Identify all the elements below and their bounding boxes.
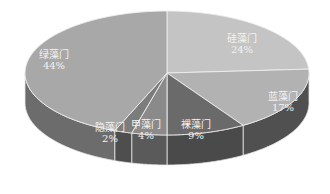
label-jiazao-pct: 4% xyxy=(138,130,154,141)
label-yinzao-pct: 2% xyxy=(102,133,118,144)
label-lanzao-pct: 17% xyxy=(272,102,294,113)
label-guizao-name: 硅藻门 xyxy=(227,32,257,44)
label-guizao-pct: 24% xyxy=(231,44,253,55)
label-luozao-pct: 9% xyxy=(188,130,204,141)
label-yinzao-name: 隐藻门 xyxy=(95,121,125,133)
label-lanzao-name: 蓝藻门 xyxy=(268,90,298,102)
pie-chart: 硅藻门 24% 蓝藻门 17% 裸藻门 9% 甲藻门 4% 隐藻门 2% 绿藻门… xyxy=(0,0,330,194)
label-jiazao-name: 甲藻门 xyxy=(131,118,161,130)
label-lvzao-pct: 44% xyxy=(43,60,65,71)
label-lvzao-name: 绿藻门 xyxy=(39,48,69,60)
pie-top-slices xyxy=(25,11,309,135)
label-luozao-name: 裸藻门 xyxy=(181,118,211,130)
